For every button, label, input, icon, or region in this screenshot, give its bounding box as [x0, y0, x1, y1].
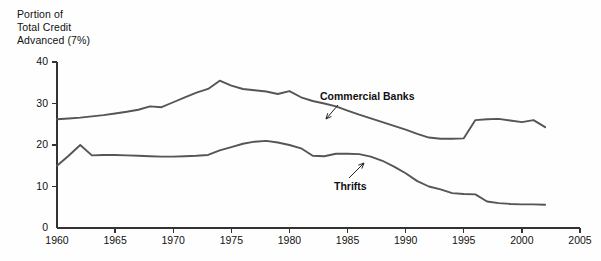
leader-arrow-commercial-banks [326, 105, 338, 119]
axis-ticks [52, 62, 580, 233]
x-tick-label: 1995 [444, 234, 484, 246]
chart-plot-area [0, 0, 601, 261]
x-tick-label: 1960 [37, 234, 77, 246]
y-tick-label: 10 [22, 180, 48, 192]
x-tick-label: 1985 [328, 234, 368, 246]
x-tick-label: 2005 [560, 234, 600, 246]
y-tick-label: 40 [22, 55, 48, 67]
series-line-thrifts [57, 141, 545, 205]
y-tick-label: 20 [22, 138, 48, 150]
x-tick-label: 2000 [502, 234, 542, 246]
x-tick-label: 1975 [211, 234, 251, 246]
series-annotation-thrifts: Thrifts [334, 180, 367, 192]
y-tick-label: 30 [22, 97, 48, 109]
x-tick-label: 1980 [269, 234, 309, 246]
series-annotation-commercial-banks: Commercial Banks [320, 90, 415, 102]
series-paths [57, 81, 545, 205]
leader-arrow-thrifts [349, 163, 364, 178]
chart-figure: Portion ofTotal CreditAdvanced (7%) 0102… [0, 0, 601, 261]
x-tick-label: 1965 [95, 234, 135, 246]
annotation-leader-lines [326, 105, 364, 178]
x-tick-label: 1990 [386, 234, 426, 246]
y-tick-label: 0 [22, 221, 48, 233]
x-tick-label: 1970 [153, 234, 193, 246]
series-line-commercial-banks [57, 81, 545, 139]
